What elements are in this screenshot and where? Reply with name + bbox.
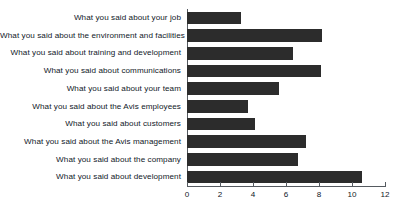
bar-row <box>187 80 385 98</box>
bar-row <box>187 62 385 80</box>
bar-row <box>187 27 385 45</box>
x-tick-mark <box>220 182 221 186</box>
bar <box>187 29 322 42</box>
category-label: What you said about development <box>0 168 184 186</box>
horizontal-bar-chart: What you said about your jobWhat you sai… <box>0 0 410 213</box>
category-label: What you said about your job <box>0 9 184 27</box>
bar <box>187 135 306 148</box>
plot-area <box>187 9 385 186</box>
bar <box>187 82 279 95</box>
x-tick-label: 0 <box>185 190 190 199</box>
bar <box>187 47 293 60</box>
category-label: What you said about the company <box>0 151 184 169</box>
x-tick-mark <box>187 182 188 186</box>
category-label: What you said about the environment and … <box>0 27 184 45</box>
x-tick-label: 2 <box>218 190 223 199</box>
x-tick-mark <box>319 182 320 186</box>
x-tick-mark <box>385 182 386 186</box>
category-label: What you said about the Avis employees <box>0 98 184 116</box>
x-tick-mark <box>286 182 287 186</box>
x-tick-label: 4 <box>251 190 256 199</box>
category-axis-labels: What you said about your jobWhat you sai… <box>0 9 184 186</box>
bar-row <box>187 98 385 116</box>
x-tick-mark <box>352 182 353 186</box>
bar-row <box>187 133 385 151</box>
bar-series <box>187 9 385 186</box>
category-label: What you said about customers <box>0 115 184 133</box>
bar <box>187 100 248 113</box>
bar <box>187 118 255 131</box>
bar <box>187 65 321 78</box>
category-label: What you said about the Avis management <box>0 133 184 151</box>
x-tick-label: 10 <box>347 190 356 199</box>
bar-row <box>187 115 385 133</box>
x-tick-label: 6 <box>284 190 289 199</box>
category-label: What you said about training and develop… <box>0 44 184 62</box>
bar-row <box>187 44 385 62</box>
x-tick-mark <box>253 182 254 186</box>
bar <box>187 153 298 166</box>
bar <box>187 171 362 184</box>
value-axis-ticks: 024681012 <box>187 186 386 212</box>
x-tick-label: 8 <box>317 190 322 199</box>
x-tick-label: 12 <box>380 190 389 199</box>
bar <box>187 12 241 25</box>
bar-row <box>187 151 385 169</box>
category-label: What you said about your team <box>0 80 184 98</box>
bar-row <box>187 9 385 27</box>
category-label: What you said about communications <box>0 62 184 80</box>
